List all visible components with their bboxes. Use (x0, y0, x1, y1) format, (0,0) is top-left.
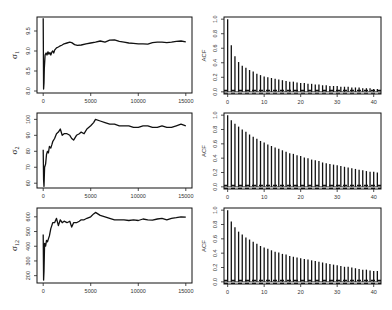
y-tick-label: 0.2 (212, 264, 218, 272)
x-tick-label: 0 (42, 98, 45, 104)
x-tick-label: 30 (334, 289, 340, 295)
y-tick-label: 0.6 (212, 235, 218, 243)
x-tick-label: 15000 (178, 288, 193, 294)
y-axis-title: σ12 (9, 240, 20, 251)
y-tick-label: 600 (25, 212, 31, 221)
y-tick-label: 1.0 (212, 15, 218, 23)
panel-acf-sigma1: 0.00.20.40.60.81.0010203040ACF (201, 15, 381, 105)
x-tick-label: 0 (226, 289, 229, 295)
x-tick-label: 40 (371, 194, 377, 200)
y-tick-label: 80 (25, 148, 31, 154)
y-tick-label: 0.8 (212, 126, 218, 134)
x-tick-label: 0 (42, 288, 45, 294)
y-tick-label: 60 (25, 180, 31, 186)
y-tick-label: 0.4 (212, 154, 218, 162)
y-tick-label: 8.0 (25, 87, 31, 95)
x-tick-label: 30 (334, 194, 340, 200)
y-tick-label: 0.4 (212, 249, 218, 257)
x-tick-label: 40 (371, 99, 377, 105)
x-tick-label: 15000 (178, 193, 193, 199)
y-tick-label: 0.4 (212, 59, 218, 67)
panel-trace-sigma12: 200300400500600050001000015000σ12 (9, 208, 193, 294)
panel-acf-sigma2: 0.00.20.40.60.81.0010203040ACF (201, 111, 381, 200)
y-axis-title: ACF (201, 240, 207, 252)
x-tick-label: 20 (298, 289, 304, 295)
x-tick-label: 0 (42, 193, 45, 199)
y-tick-label: 9.0 (25, 47, 31, 55)
y-tick-label: 0.0 (212, 278, 218, 286)
plot-frame (37, 17, 192, 93)
x-tick-label: 5000 (85, 98, 97, 104)
y-tick-label: 100 (25, 115, 31, 124)
y-tick-label: 0.6 (212, 140, 218, 148)
y-tick-label: 0.0 (212, 88, 218, 96)
y-tick-label: 70 (25, 164, 31, 170)
x-tick-label: 20 (298, 194, 304, 200)
x-tick-label: 10 (261, 289, 267, 295)
plot-frame (224, 17, 381, 94)
x-tick-label: 0 (226, 194, 229, 200)
y-tick-label: 0.0 (212, 183, 218, 191)
x-tick-label: 15000 (178, 98, 193, 104)
y-tick-label: 0.8 (212, 221, 218, 229)
x-tick-label: 10 (261, 99, 267, 105)
x-tick-label: 20 (298, 99, 304, 105)
y-axis-title: ACF (201, 49, 207, 61)
x-tick-label: 10000 (131, 98, 146, 104)
trace-line (43, 212, 186, 280)
y-tick-label: 0.8 (212, 30, 218, 38)
y-tick-label: 8.5 (25, 67, 31, 75)
y-tick-label: 1.0 (212, 206, 218, 214)
x-tick-label: 40 (371, 289, 377, 295)
plot-frame (224, 208, 381, 284)
y-tick-label: 200 (25, 271, 31, 280)
y-tick-label: 9.5 (25, 27, 31, 35)
x-tick-label: 10000 (131, 193, 146, 199)
x-tick-label: 10 (261, 194, 267, 200)
y-tick-label: 500 (25, 227, 31, 236)
y-tick-label: 90 (25, 132, 31, 138)
y-axis-title: σ1 (9, 51, 20, 59)
y-axis-title: ACF (201, 145, 207, 157)
panel-trace-sigma2: 60708090100050001000015000σ2 (9, 113, 193, 199)
plot-frame (224, 113, 381, 189)
y-tick-label: 0.2 (212, 169, 218, 177)
y-tick-label: 1.0 (212, 111, 218, 119)
panel-acf-sigma12: 0.00.20.40.60.81.0010203040ACF (201, 206, 381, 295)
x-tick-label: 5000 (85, 288, 97, 294)
x-tick-label: 30 (334, 99, 340, 105)
x-tick-label: 5000 (85, 193, 97, 199)
y-tick-label: 0.6 (212, 44, 218, 52)
panel-trace-sigma1: 8.08.59.09.5050001000015000σ1 (9, 17, 193, 104)
y-axis-title: σ2 (9, 147, 20, 155)
y-tick-label: 0.2 (212, 73, 218, 81)
y-tick-label: 400 (25, 242, 31, 251)
x-tick-label: 0 (226, 99, 229, 105)
trace-line (43, 18, 186, 89)
x-tick-label: 10000 (131, 288, 146, 294)
trace-line (43, 119, 186, 186)
figure: 8.08.59.09.5050001000015000σ1 0.00.20.40… (0, 0, 392, 310)
y-tick-label: 300 (25, 256, 31, 265)
